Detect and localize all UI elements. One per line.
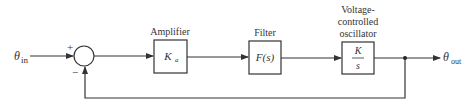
minus-sign: − (72, 66, 78, 78)
svg-text:K: K (163, 50, 172, 62)
svg-text:in: in (21, 55, 29, 65)
svg-text:K: K (354, 45, 363, 56)
plus-sign: + (67, 41, 73, 53)
input-label: θ in (14, 49, 29, 65)
svg-text:F(s): F(s) (255, 51, 275, 64)
summing-junction (74, 46, 94, 66)
filter-block: Filter F(s) (249, 27, 281, 74)
svg-text:oscillator: oscillator (339, 28, 377, 39)
svg-text:a: a (175, 56, 179, 64)
amplifier-block: Amplifier K a (150, 26, 190, 73)
vco-block: Voltage- controlled oscillator K s (338, 4, 379, 74)
svg-text:θ: θ (443, 50, 449, 64)
svg-text:Voltage-: Voltage- (341, 4, 375, 15)
svg-text:Filter: Filter (254, 27, 276, 38)
svg-text:θ: θ (14, 49, 20, 63)
pll-block-diagram: θ in + − Amplifier K a Filter F(s) Volta… (0, 0, 473, 106)
svg-text:out: out (451, 57, 462, 66)
svg-text:s: s (356, 60, 360, 71)
svg-text:Amplifier: Amplifier (150, 26, 190, 37)
svg-text:controlled: controlled (338, 16, 379, 27)
output-label: θ out (443, 50, 462, 66)
